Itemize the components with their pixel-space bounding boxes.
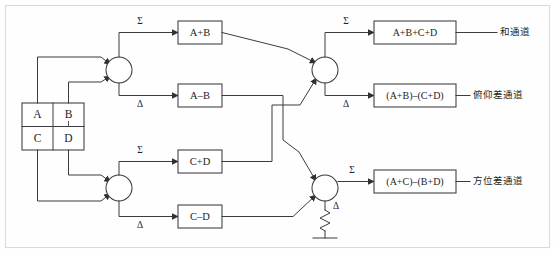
wire-bottom-left-diff-to-cmd (119, 201, 178, 217)
hybrid-bottom-right[interactable] (312, 175, 338, 201)
label-sigma-top-right: Σ (343, 16, 349, 26)
stage2-box-azimuth-channel[interactable]: (A+C)–(B+D) 方位差通道 (374, 170, 523, 193)
elevation-channel-label: (A+B)–(C+D) (386, 90, 443, 102)
hybrid-top-left[interactable] (106, 57, 132, 83)
stage2-box-elevation-channel[interactable]: (A+B)–(C+D) 俯仰差通道 (374, 84, 523, 107)
hybrid-top-right[interactable] (312, 57, 338, 83)
stage1-box-a-minus-b[interactable]: A–B (178, 84, 222, 107)
wire-top-right-diff-to-elevation-channel (325, 83, 374, 96)
wire-a-to-top-left-hybrid (38, 57, 111, 103)
stage2-box-sum-channel[interactable]: A+B+C+D 和通道 (374, 21, 530, 44)
wire-bottom-left-sum-to-cpd (119, 162, 178, 176)
quadrant-cell-a-label: A (33, 108, 42, 120)
label-sigma-bottom-right: Σ (349, 165, 355, 175)
resistive-termination: Δ (313, 201, 339, 238)
resistor-symbol (320, 210, 330, 231)
elevation-channel-name: 俯仰差通道 (473, 89, 523, 100)
wire-d-to-bottom-left-hybrid (69, 150, 111, 182)
sum-channel-label: A+B+C+D (393, 27, 438, 38)
diagram-frame (6, 6, 550, 248)
four-quadrant-feed: A B C D (22, 103, 84, 150)
wire-apb-to-top-right-hybrid (222, 33, 316, 64)
azimuth-channel-name: 方位差通道 (473, 175, 523, 186)
label-delta-top-left: Δ (137, 99, 143, 109)
wire-top-left-sum-to-apb (119, 33, 178, 58)
monopulse-comparator-diagram: A B C D Σ Δ (0, 0, 555, 253)
c-plus-d-label: C+D (190, 156, 211, 167)
hybrid-bottom-left[interactable] (106, 175, 132, 201)
wire-cmd-to-bottom-right-hybrid (222, 195, 316, 217)
quadrant-cell-c-label: C (34, 132, 42, 144)
wire-b-to-top-left-hybrid (69, 76, 111, 103)
sum-channel-name: 和通道 (500, 26, 530, 37)
stage1-box-c-plus-d[interactable]: C+D (178, 150, 222, 173)
wire-top-left-diff-to-amb (119, 83, 178, 96)
wire-top-right-sum-to-sum-channel (325, 33, 374, 58)
label-sigma-bottom-left: Σ (137, 145, 143, 155)
label-delta-bottom-right: Δ (333, 201, 339, 211)
quadrant-cell-d-label: D (64, 132, 72, 144)
quadrant-cell-b-label: B (65, 108, 73, 120)
a-plus-b-label: A+B (190, 27, 211, 38)
label-delta-bottom-left: Δ (137, 220, 143, 230)
label-sigma-top-left: Σ (137, 16, 143, 26)
diagram-canvas: A B C D Σ Δ (0, 0, 555, 253)
azimuth-channel-label: (A+C)–(B+D) (386, 176, 443, 188)
label-delta-top-right: Δ (343, 99, 349, 109)
wire-cpd-to-top-right-hybrid (222, 78, 317, 162)
c-minus-d-label: C–D (190, 211, 210, 222)
wire-amb-to-bottom-right-hybrid (222, 96, 316, 182)
stage1-box-c-minus-d[interactable]: C–D (178, 205, 222, 228)
stage1-box-a-plus-b[interactable]: A+B (178, 21, 222, 44)
a-minus-b-label: A–B (190, 90, 210, 101)
